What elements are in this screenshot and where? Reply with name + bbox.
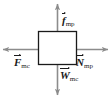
friction-symbol-glyph: f: [62, 14, 66, 26]
applied-subscript: mc: [21, 62, 30, 70]
free-body-diagram: fmp Wmc Fmc Nmp: [0, 0, 111, 99]
friction-vector-symbol: f: [62, 13, 66, 26]
normal-subscript: mp: [84, 62, 93, 70]
weight-vector-symbol: W: [60, 68, 70, 81]
applied-vector-symbol: F: [14, 55, 21, 68]
friction-force-label: fmp: [62, 13, 75, 28]
normal-symbol-glyph: N: [76, 56, 84, 68]
vector-overbar-icon: [62, 13, 66, 14]
body-rectangle: [39, 32, 77, 65]
normal-vector-symbol: N: [76, 55, 84, 68]
force-diagram-canvas: [0, 0, 111, 99]
applied-symbol-glyph: F: [14, 56, 21, 68]
vector-overbar-icon: [60, 68, 70, 69]
normal-force-label: Nmp: [76, 55, 93, 70]
vector-overbar-icon: [76, 55, 84, 56]
applied-force-label: Fmc: [14, 55, 30, 70]
weight-force-label: Wmc: [60, 68, 78, 83]
weight-symbol-glyph: W: [60, 69, 70, 81]
vector-overbar-icon: [14, 55, 21, 56]
weight-subscript: mc: [70, 75, 79, 83]
friction-subscript: mp: [66, 20, 75, 28]
